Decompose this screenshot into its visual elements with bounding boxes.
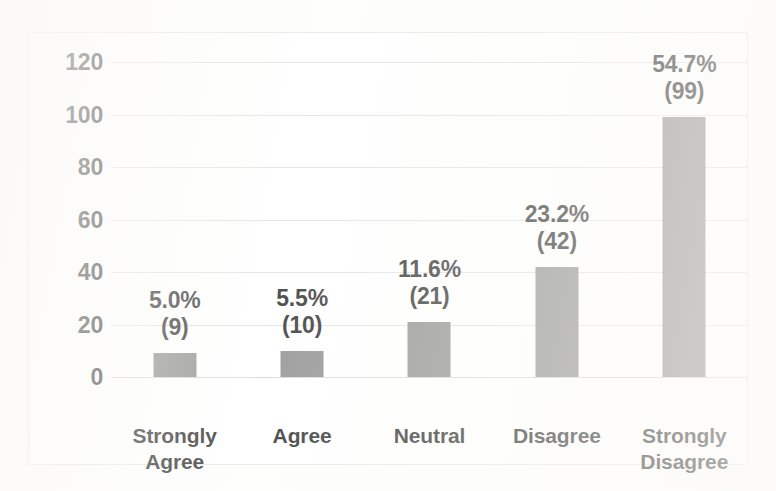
- bar-count-text: (21): [349, 283, 509, 310]
- bar-group: 5.0%(9)StronglyAgree: [111, 33, 238, 466]
- y-axis-tick-20: 20: [29, 313, 103, 336]
- bar-value-label: 23.2%(42): [477, 201, 637, 255]
- bar-percent-text: 54.7%: [604, 51, 764, 78]
- y-axis-tick-0: 0: [29, 366, 103, 389]
- bar-plot-area: 5.0%(9)StronglyAgree5.5%(10)Agree11.6%(2…: [111, 33, 748, 466]
- bar[interactable]: [663, 117, 706, 377]
- x-axis-category-line: Strongly: [609, 423, 759, 449]
- bar-count-text: (99): [604, 78, 764, 105]
- bar[interactable]: [535, 267, 578, 377]
- bar[interactable]: [153, 353, 196, 377]
- bar-value-label: 54.7%(99): [604, 51, 764, 105]
- x-axis-category-line: Disagree: [609, 449, 759, 475]
- bar-percent-text: 23.2%: [477, 201, 637, 228]
- y-axis-tick-60: 60: [29, 208, 103, 231]
- y-axis-tick-120: 120: [29, 51, 103, 74]
- y-axis-tick-100: 100: [29, 103, 103, 126]
- bar-group: 11.6%(21)Neutral: [366, 33, 493, 466]
- bar[interactable]: [281, 351, 324, 377]
- x-axis-category-label: StronglyDisagree: [609, 423, 759, 476]
- bar-value-label: 11.6%(21): [349, 256, 509, 310]
- bar-count-text: (10): [222, 312, 382, 339]
- bar-percent-text: 11.6%: [349, 256, 509, 283]
- y-axis-tick-40: 40: [29, 261, 103, 284]
- bar-group: 5.5%(10)Agree: [238, 33, 365, 466]
- chart-plot-frame: 120100806040200 5.0%(9)StronglyAgree5.5%…: [28, 32, 748, 465]
- bar-group: 54.7%(99)StronglyDisagree: [621, 33, 748, 466]
- y-axis-tick-80: 80: [29, 156, 103, 179]
- bar-count-text: (42): [477, 228, 637, 255]
- x-axis-category-line: Agree: [100, 449, 250, 475]
- bar[interactable]: [408, 322, 451, 377]
- bar-group: 23.2%(42)Disagree: [493, 33, 620, 466]
- y-axis-tick-labels: 120100806040200: [29, 33, 103, 466]
